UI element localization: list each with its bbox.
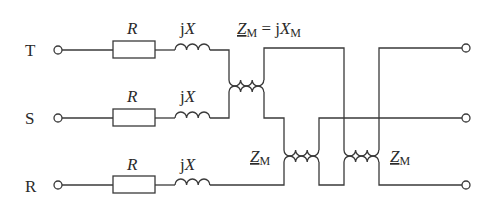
terminal-label-t: T — [25, 41, 36, 60]
circuit-diagram: T S R R R R jX jX jX — [0, 0, 494, 211]
resistor-label-r: R — [126, 155, 138, 174]
inductor-r — [175, 179, 210, 185]
terminal-label-r: R — [25, 177, 37, 196]
mutual-impedance-label-mid: ZM — [250, 147, 270, 168]
mutual-impedance-label-right: ZM — [390, 147, 410, 168]
inductor-s — [175, 112, 210, 118]
terminal-s-left — [54, 114, 62, 122]
reactance-label-r: jX — [179, 155, 196, 174]
resistor-t — [62, 41, 175, 58]
resistor-label-s: R — [126, 87, 138, 106]
terminal-r-left — [54, 181, 62, 189]
terminal-r-right — [462, 181, 470, 189]
resistor-label-t: R — [126, 19, 138, 38]
reactance-label-s: jX — [179, 87, 196, 106]
terminal-s-right — [462, 114, 470, 122]
reactance-label-t: jX — [179, 19, 196, 38]
resistor-s — [62, 109, 175, 126]
inductor-t — [175, 44, 210, 50]
mutual-coupling-ts — [210, 48, 344, 150]
mutual-coupling-sr — [210, 118, 462, 185]
terminal-t-left — [54, 46, 62, 54]
terminal-t-right — [462, 44, 470, 52]
resistor-r — [62, 176, 175, 193]
terminal-label-s: S — [25, 109, 34, 128]
mutual-impedance-label-top: ZM = jXM — [237, 19, 301, 40]
